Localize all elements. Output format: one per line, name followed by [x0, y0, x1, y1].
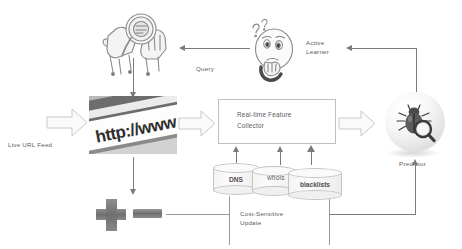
edge-query-arrowhead [179, 45, 185, 51]
edge-feedback-right-line [416, 48, 417, 92]
collector-box: Real-time Feature Collector [218, 99, 336, 144]
edge-feedback-top-line [352, 48, 416, 49]
node-label-live-url-feed: Live URL Feed [8, 140, 52, 149]
edge-whois-to-collector-line [280, 152, 281, 165]
minus-icon [133, 209, 162, 218]
node-label-active-learner: Active Learner [306, 38, 329, 56]
edge-dns-to-collector-arrowhead [233, 146, 239, 152]
database-label-whois: whois [267, 173, 285, 182]
cylinder-bottom [288, 190, 342, 200]
edge-label-query: Query [196, 64, 214, 73]
cylinder-top [288, 168, 342, 178]
edge-update-right-riser [329, 196, 330, 245]
plus-icon [96, 199, 126, 231]
edge-url-to-training-arrowhead [130, 189, 136, 195]
url-photo-icon: http://www [89, 96, 177, 154]
edge-whois-to-collector-arrowhead [277, 146, 283, 152]
system-architecture-diagram: Query [0, 0, 462, 249]
database-cylinder-blacklists: blacklists [288, 168, 342, 200]
edge-feedback-arrowhead [346, 45, 352, 51]
edge-update-right-line [329, 214, 416, 215]
block-arrow-to-collector-icon [178, 110, 216, 137]
edge-update-to-predictor-line [415, 165, 416, 215]
node-label-collector: Real-time Feature Collector [237, 109, 292, 131]
edge-update-left-line [166, 214, 230, 215]
edge-labeler-to-url-line [133, 58, 134, 93]
edge-url-to-training-line [133, 157, 134, 190]
edge-update-left-riser [229, 196, 230, 245]
bug-magnifier-sphere-icon [394, 101, 437, 143]
hands-magnifier-icon [86, 6, 182, 80]
database-label-blacklists: blacklists [288, 181, 342, 188]
edge-label-cost-sensitive-update: Cost-Sensitive Update [240, 209, 283, 227]
edge-blacklists-to-collector-line [311, 152, 312, 165]
block-arrow-to-predictor-icon [338, 110, 376, 137]
database-label-dns: DNS [213, 176, 259, 183]
edge-query-line [185, 48, 250, 49]
thinking-face-icon [243, 18, 303, 84]
edge-blacklists-to-collector-arrowhead [307, 145, 315, 152]
block-arrow-right-icon [46, 108, 88, 137]
edge-update-to-predictor-arrowhead [412, 159, 418, 165]
